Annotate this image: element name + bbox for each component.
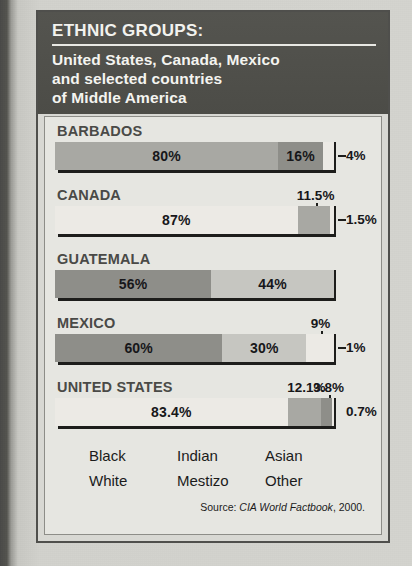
bar-segment: 60%: [55, 334, 222, 362]
callout-leader-line: [338, 219, 346, 221]
bar-segment: [331, 334, 334, 362]
segment-callout-label: 11.5%: [297, 188, 335, 203]
header-subtitle-line-2: and selected countries: [52, 69, 388, 88]
bar-segment: 44%: [211, 270, 334, 298]
segment-value-label: 30%: [250, 340, 279, 356]
legend-item-black: Black: [89, 447, 177, 464]
segment-callout-label: 9%: [311, 316, 331, 331]
legend: Black Indian Asian White Mestizo Other: [55, 447, 371, 489]
header-subtitle-line-3: of Middle America: [52, 88, 388, 107]
bar-chart-rows: BARBADOS4%80%16%CANADA11.5%1.5%87%GUATEM…: [55, 123, 371, 443]
header-divider-rule: [52, 44, 376, 46]
bar-segment: [306, 334, 331, 362]
stacked-bar: 56%44%: [55, 270, 336, 298]
chart-row: MEXICO9%1%60%30%: [55, 315, 371, 379]
bar-segment: [321, 398, 332, 426]
segment-callout-label: 1.5%: [346, 212, 377, 227]
source-note: Source: CIA World Factbook, 2000.: [55, 501, 371, 513]
segment-value-label: 44%: [258, 276, 287, 292]
segment-value-label: 60%: [124, 340, 153, 356]
chart-row: CANADA11.5%1.5%87%: [55, 187, 371, 251]
bar-segment: [330, 206, 334, 234]
chart-row: GUATEMALA56%44%: [55, 251, 371, 315]
header-title: ETHNIC GROUPS:: [52, 21, 388, 41]
bar-segment: 56%: [55, 270, 211, 298]
infographic-header: ETHNIC GROUPS: United States, Canada, Me…: [38, 12, 388, 114]
bar-wrapper: 12.1%3.8%0.7%83.4%: [55, 398, 371, 429]
header-subtitle-line-1: United States, Canada, Mexico: [52, 50, 388, 69]
bar-wrapper: 4%80%16%: [55, 142, 371, 173]
infographic-card: ETHNIC GROUPS: United States, Canada, Me…: [36, 10, 390, 543]
legend-item-indian: Indian: [177, 447, 265, 464]
legend-item-mestizo: Mestizo: [177, 472, 265, 489]
segment-callout-label: 4%: [346, 148, 366, 163]
bar-segment: 87%: [55, 206, 298, 234]
legend-item-asian: Asian: [265, 447, 353, 464]
country-label: GUATEMALA: [55, 251, 371, 267]
bar-segment: 83.4%: [55, 398, 288, 426]
segment-value-label: 87%: [162, 212, 191, 228]
bar-segment: 30%: [222, 334, 306, 362]
source-publication: CIA World Factbook: [239, 501, 333, 513]
bar-wrapper: 11.5%1.5%87%: [55, 206, 371, 237]
bar-wrapper: 56%44%: [55, 270, 371, 301]
segment-callout-label: 3.8%: [313, 380, 344, 395]
legend-item-other: Other: [265, 472, 353, 489]
source-prefix: Source:: [200, 501, 236, 513]
stacked-bar: 60%30%: [55, 334, 336, 362]
segment-value-label: 80%: [152, 148, 181, 164]
bar-segment: 80%: [55, 142, 278, 170]
bar-segment: [323, 142, 334, 170]
legend-item-white: White: [89, 472, 177, 489]
callout-leader-line: [338, 347, 346, 349]
bar-wrapper: 9%1%60%30%: [55, 334, 371, 365]
source-year: , 2000.: [333, 501, 365, 513]
bar-segment: [332, 398, 334, 426]
chart-row: BARBADOS4%80%16%: [55, 123, 371, 187]
chart-panel: BARBADOS4%80%16%CANADA11.5%1.5%87%GUATEM…: [44, 116, 382, 535]
stacked-bar: 87%: [55, 206, 336, 234]
chart-row: UNITED STATES12.1%3.8%0.7%83.4%: [55, 379, 371, 443]
segment-callout-label: 0.7%: [346, 404, 377, 419]
callout-leader-line: [338, 155, 346, 157]
bar-segment: [288, 398, 322, 426]
bar-segment: 16%: [278, 142, 323, 170]
stacked-bar: 80%16%: [55, 142, 336, 170]
segment-value-label: 16%: [286, 148, 315, 164]
bar-segment: [298, 206, 330, 234]
segment-value-label: 83.4%: [151, 404, 192, 420]
segment-value-label: 56%: [119, 276, 148, 292]
stacked-bar: 83.4%: [55, 398, 336, 426]
segment-callout-label: 1%: [346, 340, 366, 355]
country-label: BARBADOS: [55, 123, 371, 139]
